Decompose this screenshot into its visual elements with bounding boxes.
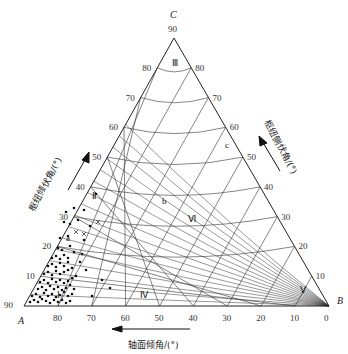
data-point [37, 301, 40, 304]
data-point [51, 263, 54, 266]
data-point [67, 257, 70, 260]
right-tick: 70 [212, 93, 222, 103]
left-tick: 10 [26, 271, 35, 281]
data-point [91, 295, 94, 298]
data-point [73, 251, 76, 254]
data-point [49, 285, 52, 288]
vertex-b-label: B [337, 295, 343, 306]
bottom-tick: 90 [4, 300, 14, 310]
data-point [51, 278, 54, 281]
bottom-tick: 10 [290, 313, 300, 323]
data-point [59, 262, 62, 265]
data-point [109, 287, 112, 290]
data-point [101, 279, 104, 282]
region-label: a [66, 233, 70, 243]
data-point [73, 207, 76, 210]
vertex-c-label: C [170, 9, 177, 20]
data-point [59, 279, 62, 282]
data-point [71, 267, 74, 270]
data-point [63, 282, 66, 285]
data-point [61, 289, 64, 292]
data-point [41, 298, 44, 301]
vertex-a-label: A [17, 315, 25, 326]
right-tick: 50 [247, 152, 257, 162]
data-point [51, 274, 54, 277]
x-mark [82, 232, 86, 236]
right-tick: 40 [264, 182, 274, 192]
data-point [65, 287, 68, 290]
right-axis-label-group: 枢纽侧伏角/(°) [262, 118, 300, 176]
region-label: c [225, 140, 229, 150]
data-point [63, 271, 66, 274]
data-point [37, 288, 40, 291]
left-tick: 30 [59, 212, 69, 222]
data-point [39, 296, 42, 299]
bottom-tick: 0 [324, 313, 329, 323]
data-point [69, 223, 72, 226]
data-point [61, 249, 64, 252]
region-label: Ⅰ [57, 290, 60, 300]
bottom-tick: 40 [188, 313, 198, 323]
data-point [47, 271, 50, 274]
data-point [49, 302, 52, 305]
data-point [59, 258, 62, 261]
data-point [45, 300, 48, 303]
data-point [55, 281, 58, 284]
left-tick: 60 [109, 122, 119, 132]
x-mark [74, 230, 78, 234]
right-tick: 20 [299, 241, 309, 251]
data-point [75, 275, 78, 278]
data-point [81, 253, 84, 256]
right-tick: 80 [195, 63, 205, 73]
left-tick: 20 [42, 241, 52, 251]
ternary-diagram: 9080706050403020100102030405060708010203… [0, 0, 348, 354]
data-point [67, 269, 70, 272]
data-point [77, 219, 80, 222]
data-point [79, 261, 82, 264]
bottom-axis-arrow [112, 326, 190, 332]
data-point [55, 266, 58, 269]
region-label: Ⅱ [92, 191, 96, 201]
bottom-axis-label: 轴面倾角/(°) [128, 339, 179, 350]
bottom-tick: 70 [87, 313, 97, 323]
left-tick: 50 [92, 152, 102, 162]
data-point [69, 284, 72, 287]
data-point [53, 288, 56, 291]
left-tick: 80 [142, 63, 152, 73]
left-axis-label-group: 枢纽倾伏角/(°) [26, 155, 64, 213]
region-label: Ⅲ [172, 58, 178, 68]
data-point [47, 282, 50, 285]
data-point [53, 299, 56, 302]
apex-tick-90: 90 [168, 24, 178, 34]
data-point [83, 239, 86, 242]
data-point [55, 255, 58, 258]
data-point [69, 245, 72, 248]
left-tick: 40 [76, 182, 86, 192]
data-point [57, 286, 60, 289]
region-labels: ⅠⅡⅢⅣⅤⅥabc [57, 58, 307, 300]
data-point [41, 286, 44, 289]
data-point [51, 293, 54, 296]
bottom-tick: 80 [53, 313, 63, 323]
data-point [63, 291, 66, 294]
data-point [69, 300, 72, 303]
arrow-up-icon [259, 136, 267, 146]
data-point [67, 261, 70, 264]
data-point [65, 302, 68, 305]
data-point [45, 289, 48, 292]
right-tick: 60 [230, 122, 240, 132]
data-point [73, 288, 76, 291]
tick-labels: 9080706050403020100102030405060708010203… [4, 63, 329, 323]
data-point [33, 299, 36, 302]
bottom-tick: 60 [121, 313, 130, 323]
data-point [67, 280, 70, 283]
data-point [61, 299, 64, 302]
data-point [71, 293, 74, 296]
data-point [43, 292, 46, 295]
data-point [31, 295, 34, 298]
arc-curves [57, 68, 294, 257]
data-point [59, 237, 62, 240]
data-point [47, 265, 50, 268]
data-point [39, 281, 42, 284]
arrow-left-icon [112, 326, 122, 332]
